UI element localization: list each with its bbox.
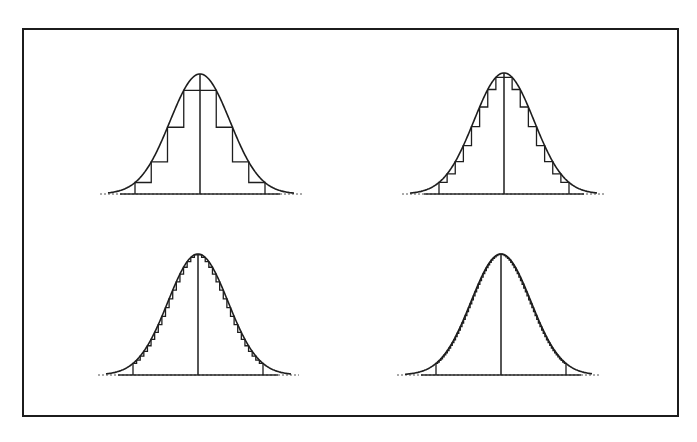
step-approximation-right [501,254,566,375]
step-approximation-right [200,90,265,194]
panel-bottom-right [397,254,600,375]
step-approximation-right [504,77,569,194]
gaussian-curve [405,254,592,374]
panel-top-left [100,74,302,194]
step-approximation-left [439,77,504,194]
panel-bottom-left [98,254,299,375]
gaussian-step-approximation-panels [0,0,697,442]
step-approximation-left [135,90,200,194]
gaussian-curve [108,74,294,193]
step-approximation-left [436,254,501,375]
panel-top-right [402,73,605,194]
step-approximation-right [198,255,263,375]
step-approximation-left [133,255,198,375]
